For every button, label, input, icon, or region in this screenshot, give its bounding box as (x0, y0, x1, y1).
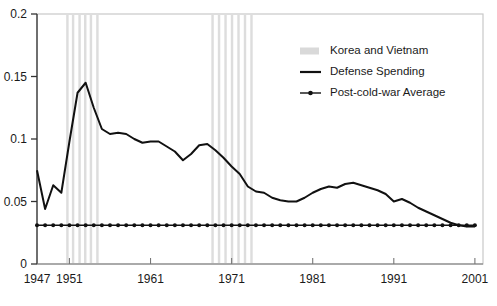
y-tick-label: 0.1 (10, 132, 27, 146)
war-band-stripe (96, 15, 98, 264)
defense-spending-chart: 00.050.10.150.21947195119611971198119912… (0, 0, 497, 306)
average-marker-dot (254, 223, 258, 227)
x-tick-label: 1981 (299, 272, 326, 286)
average-marker-dot (319, 223, 323, 227)
average-marker-dot (213, 223, 217, 227)
average-marker-dot (108, 223, 112, 227)
average-marker-dot (165, 223, 169, 227)
average-marker-dot (189, 223, 193, 227)
chart-canvas: 00.050.10.150.21947195119611971198119912… (0, 0, 497, 306)
average-marker-dot (384, 223, 388, 227)
average-marker-dot (294, 223, 298, 227)
defense-spending-line (37, 83, 475, 227)
average-marker-dot (181, 223, 185, 227)
war-band-stripe (211, 15, 213, 264)
average-marker-dot (35, 223, 39, 227)
average-marker-dot (286, 223, 290, 227)
average-marker-dot (367, 223, 371, 227)
average-marker-dot (51, 223, 55, 227)
average-marker-dot (230, 223, 234, 227)
average-marker-dot (343, 223, 347, 227)
average-marker-dot (424, 223, 428, 227)
legend-label: Post-cold-war Average (330, 86, 445, 98)
average-marker-dot (465, 223, 469, 227)
average-marker-dot (100, 223, 104, 227)
average-marker-dot (238, 223, 242, 227)
average-marker-dot (197, 223, 201, 227)
average-marker-dot (278, 223, 282, 227)
average-marker-dot (84, 223, 88, 227)
average-marker-dot (311, 223, 315, 227)
war-band-stripe (218, 15, 220, 264)
average-marker-dot (43, 223, 47, 227)
average-marker-dot (205, 223, 209, 227)
x-tick-label: 1951 (56, 272, 83, 286)
average-marker-dot (92, 223, 96, 227)
average-marker-dot (157, 223, 161, 227)
average-marker-dot (351, 223, 355, 227)
y-tick-label: 0 (20, 257, 27, 271)
average-marker-dot (132, 223, 136, 227)
war-band-stripe (250, 15, 252, 264)
average-marker-dot (270, 223, 274, 227)
average-marker-dot (376, 223, 380, 227)
legend-label: Defense Spending (330, 65, 425, 77)
average-marker-dot (76, 223, 80, 227)
average-marker-dot (400, 223, 404, 227)
average-marker-dot (416, 223, 420, 227)
average-marker-dot (457, 223, 461, 227)
average-marker-dot (59, 223, 63, 227)
average-marker-dot (173, 223, 177, 227)
war-band-stripe (244, 15, 246, 264)
average-marker-dot (408, 223, 412, 227)
average-marker-dot (140, 223, 144, 227)
legend-marker-dot (308, 91, 313, 96)
legend-label: Korea and Vietnam (330, 44, 428, 56)
x-tick-label: 1947 (24, 272, 51, 286)
average-marker-dot (449, 223, 453, 227)
average-marker-dot (124, 223, 128, 227)
x-tick-label: 1971 (218, 272, 245, 286)
average-marker-dot (327, 223, 331, 227)
average-marker-dot (335, 223, 339, 227)
legend-swatch-war-band (300, 48, 319, 55)
average-marker-dot (116, 223, 120, 227)
average-marker-dot (392, 223, 396, 227)
y-tick-label: 0.05 (4, 195, 28, 209)
average-marker-dot (473, 223, 477, 227)
average-marker-dot (359, 223, 363, 227)
average-marker-dot (67, 223, 71, 227)
x-tick-label: 1961 (137, 272, 164, 286)
war-band-stripe (72, 15, 74, 264)
average-marker-dot (303, 223, 307, 227)
y-tick-label: 0.15 (4, 70, 28, 84)
average-marker-dot (262, 223, 266, 227)
average-marker-dot (149, 223, 153, 227)
average-marker-dot (432, 223, 436, 227)
y-tick-label: 0.2 (10, 7, 27, 21)
x-tick-label: 1991 (380, 272, 407, 286)
average-marker-dot (440, 223, 444, 227)
war-band-stripe (90, 15, 92, 264)
x-tick-label: 2001 (462, 272, 489, 286)
average-marker-dot (246, 223, 250, 227)
average-marker-dot (222, 223, 226, 227)
